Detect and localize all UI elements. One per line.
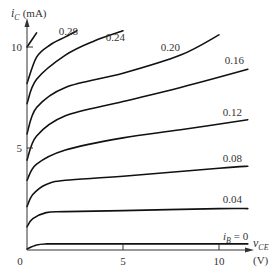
y-tick-label-5: 5 <box>17 142 23 154</box>
curve-ib-unlabeled <box>27 33 37 47</box>
origin-label: 0 <box>17 255 23 267</box>
curve-ib-0-16 <box>27 69 248 160</box>
curve-ib-0-04 <box>27 208 248 226</box>
x-axis-unit: (V) <box>253 254 269 267</box>
curve-ib-0-28 <box>27 31 77 84</box>
curve-ib-0-12 <box>27 120 248 181</box>
curve-label: 0.08 <box>223 152 243 164</box>
curve-label: 0.20 <box>161 41 181 53</box>
curve-ib-i-B-0 <box>27 244 248 249</box>
x-axis-label: vCE <box>253 236 269 252</box>
ib-zero-label: iB = 0 <box>223 230 249 245</box>
curve-label: 0.16 <box>225 54 245 66</box>
x-tick-label-10: 10 <box>214 255 226 267</box>
curve-label: 0.24 <box>106 31 126 43</box>
y-tick-label-10: 10 <box>11 41 23 53</box>
curve-label: 0.28 <box>59 25 79 37</box>
y-axis-label: iC(mA) <box>11 6 47 22</box>
x-tick-label-5: 5 <box>120 255 126 267</box>
curve-label: 0.04 <box>223 193 243 205</box>
curve-label: 0.12 <box>223 106 242 118</box>
y-axis-arrow-icon <box>25 18 30 27</box>
curve-ib-0-08 <box>27 166 248 206</box>
curve-group <box>27 31 248 249</box>
chart-canvas: 0.040.080.120.160.200.240.28 10 5 0 5 10… <box>0 0 277 273</box>
